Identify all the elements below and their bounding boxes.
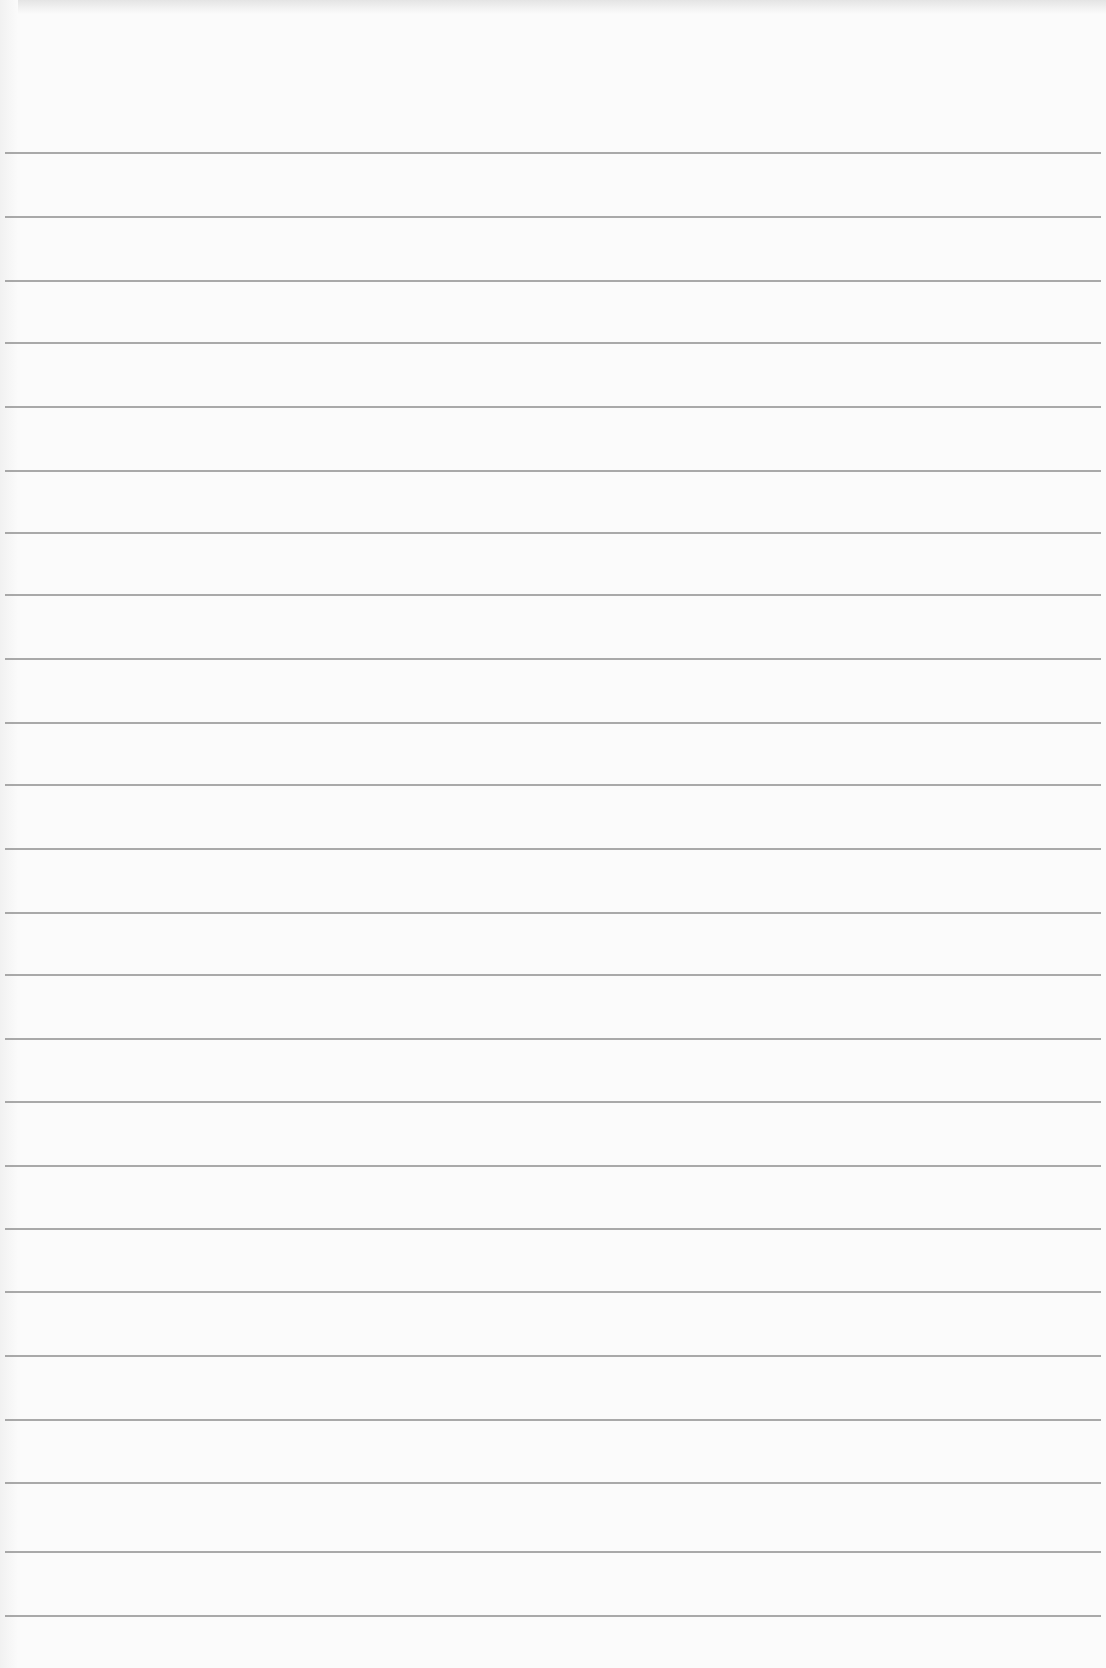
ruled-line xyxy=(5,342,1101,344)
ruled-line xyxy=(5,974,1101,976)
ruled-line xyxy=(5,1482,1101,1484)
ruled-line xyxy=(5,784,1101,786)
ruled-line xyxy=(5,594,1101,596)
ruled-line xyxy=(5,406,1101,408)
ruled-line xyxy=(5,1551,1101,1553)
ruled-line xyxy=(5,1615,1101,1617)
ruled-line xyxy=(5,1419,1101,1421)
ruled-line xyxy=(5,1038,1101,1040)
ruled-line xyxy=(5,152,1101,154)
ruled-line xyxy=(5,722,1101,724)
ruled-line xyxy=(5,1291,1101,1293)
ruled-line xyxy=(5,658,1101,660)
ruled-line xyxy=(5,532,1101,534)
ruled-line xyxy=(5,1228,1101,1230)
ruled-line xyxy=(5,1101,1101,1103)
ruled-line xyxy=(5,912,1101,914)
ruled-line xyxy=(5,280,1101,282)
ruled-line xyxy=(5,470,1101,472)
ruled-line xyxy=(5,848,1101,850)
lined-paper xyxy=(0,0,1106,1668)
ruled-line xyxy=(5,216,1101,218)
ruled-line xyxy=(5,1355,1101,1357)
ruled-line xyxy=(5,1165,1101,1167)
